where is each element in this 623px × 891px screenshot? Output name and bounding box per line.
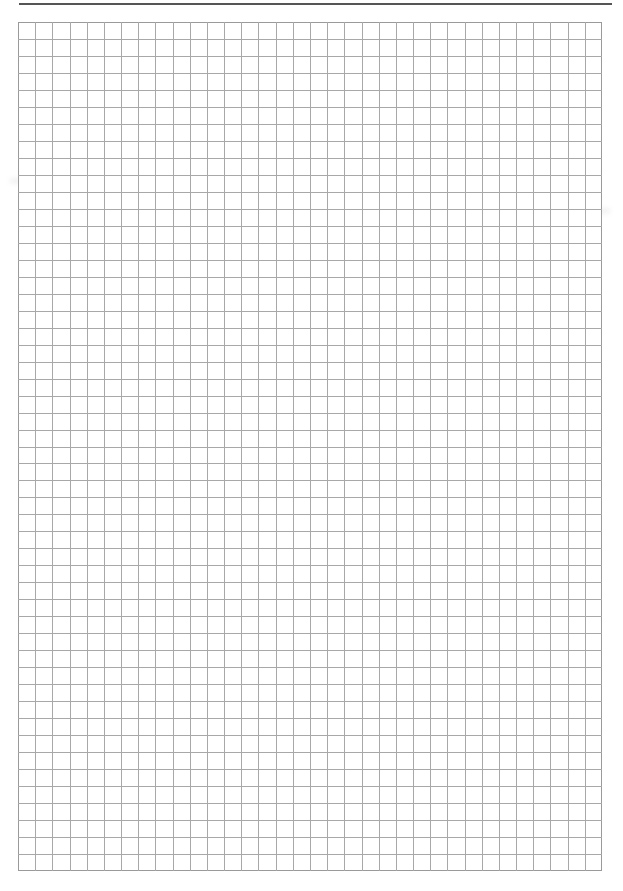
- grid-lines: [18, 22, 602, 871]
- header-rule: [19, 3, 612, 5]
- graph-paper-grid: [18, 22, 602, 871]
